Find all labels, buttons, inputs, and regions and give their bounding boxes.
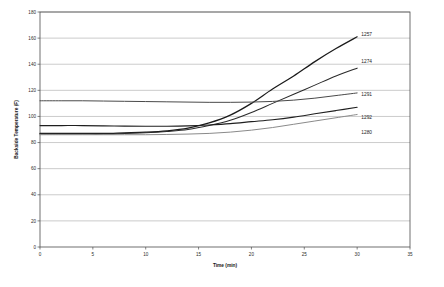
series-label-1280: 1280 (361, 130, 372, 135)
x-tick-label-10: 10 (143, 252, 149, 257)
x-tick-label-0: 0 (39, 252, 42, 257)
series-line-1291 (40, 93, 357, 102)
y-tick-label-40: 40 (31, 192, 37, 197)
y-tick-label-160: 160 (28, 36, 36, 41)
x-tick-label-30: 30 (355, 252, 361, 257)
y-tick-label-120: 120 (28, 88, 36, 93)
y-tick-label-180: 180 (28, 10, 36, 15)
series-line-1257 (40, 37, 357, 134)
y-tick-label-60: 60 (31, 166, 37, 171)
line-chart: 02040608010012014016018005101520253035Ba… (0, 0, 444, 287)
y-tick-label-140: 140 (28, 62, 36, 67)
y-axis-title: Backside Temperature (F) (14, 100, 19, 159)
y-tick-label-100: 100 (28, 114, 36, 119)
y-tick-label-20: 20 (31, 219, 37, 224)
series-label-1274: 1274 (361, 59, 372, 64)
y-tick-label-0: 0 (33, 245, 36, 250)
x-tick-label-20: 20 (249, 252, 255, 257)
x-tick-label-35: 35 (407, 252, 413, 257)
series-line-1280 (40, 114, 357, 134)
series-label-1291: 1291 (361, 92, 372, 97)
series-label-1257: 1257 (361, 32, 372, 37)
x-axis-title: Time (min) (213, 263, 238, 268)
series-label-1292: 1292 (361, 115, 372, 120)
series-line-1292 (40, 107, 357, 126)
x-tick-label-5: 5 (92, 252, 95, 257)
y-tick-label-80: 80 (31, 140, 37, 145)
x-tick-label-15: 15 (196, 252, 202, 257)
chart-container: 02040608010012014016018005101520253035Ba… (0, 0, 444, 287)
x-tick-label-25: 25 (302, 252, 308, 257)
plot-area-border (40, 12, 410, 247)
